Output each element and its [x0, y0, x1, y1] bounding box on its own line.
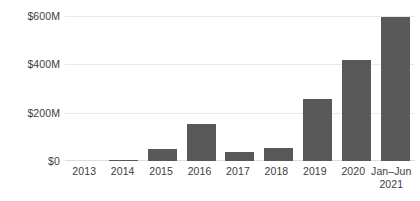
bar-slot — [104, 16, 143, 161]
y-axis-tick-600: $600M — [4, 11, 60, 22]
x-axis-label-2014: 2014 — [103, 165, 141, 191]
bar-slot — [65, 16, 104, 161]
x-axis-label-2013: 2013 — [65, 165, 103, 191]
x-axis-label-2017: 2017 — [219, 165, 257, 191]
bar-2015[interactable] — [148, 149, 177, 161]
x-axis-label-line1: Jan–Jun — [371, 165, 411, 177]
y-axis-tick-label: $600M — [27, 10, 60, 22]
x-axis-label-line1: 2016 — [188, 165, 212, 177]
bar-2014[interactable] — [109, 160, 138, 161]
x-axis-label-line1: 2015 — [149, 165, 173, 177]
bar-chart: $600M $400M $200M $0 2013 2014 2015 2016 — [0, 0, 420, 201]
y-axis-tick-label: $0 — [48, 155, 60, 167]
y-axis-tick-200: $200M — [4, 108, 60, 119]
bar-2019[interactable] — [303, 99, 332, 161]
x-axis-label-line1: 2013 — [72, 165, 96, 177]
y-axis-tick-label: $200M — [27, 107, 60, 119]
x-axis-label-line1: 2019 — [303, 165, 327, 177]
x-axis-label-2016: 2016 — [180, 165, 218, 191]
x-axis-label-jan-jun-2021: Jan–Jun 2021 — [368, 165, 416, 191]
bar-slot — [298, 16, 337, 161]
x-axis-label-line1: 2017 — [226, 165, 250, 177]
x-axis-label-2018: 2018 — [257, 165, 295, 191]
y-axis-tick-400: $400M — [4, 59, 60, 70]
bar-slot — [376, 16, 415, 161]
bar-slot — [259, 16, 298, 161]
x-axis-label-line2: 2021 — [368, 178, 416, 191]
bar-jan-jun-2021[interactable] — [381, 17, 410, 161]
y-axis-tick-0: $0 — [4, 156, 60, 167]
bar-slot — [221, 16, 260, 161]
x-axis-labels: 2013 2014 2015 2016 2017 2018 2019 2020 … — [65, 165, 415, 191]
x-axis-label-line1: 2018 — [265, 165, 289, 177]
x-axis-label-line1: 2020 — [341, 165, 365, 177]
bar-slot — [143, 16, 182, 161]
x-axis-label-line1: 2014 — [111, 165, 135, 177]
bar-slot — [182, 16, 221, 161]
x-axis-label-2015: 2015 — [142, 165, 180, 191]
x-axis-label-2019: 2019 — [296, 165, 334, 191]
bar-series — [65, 16, 415, 161]
y-axis-tick-label: $400M — [27, 58, 60, 70]
bar-2020[interactable] — [342, 60, 371, 162]
bar-2016[interactable] — [187, 124, 216, 161]
bar-2018[interactable] — [264, 148, 293, 161]
bar-2017[interactable] — [225, 152, 254, 161]
bar-slot — [337, 16, 376, 161]
